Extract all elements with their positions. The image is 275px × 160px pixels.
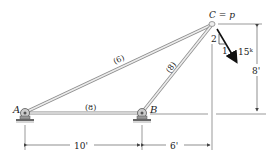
member-label-bc: (8) [164, 60, 178, 74]
dimension-label-height: 8' [252, 66, 260, 76]
member-label-ab: (8) [85, 103, 96, 112]
joint-label-a: A [12, 104, 20, 115]
joint-c [209, 22, 215, 27]
truss-diagram: A B C = p (6) (8) (8) 2 1 15ᵏ 8' 10' 6' [0, 0, 275, 160]
dimension-label-bc: 6' [170, 141, 178, 151]
slope-rise-label: 2 [211, 34, 217, 44]
dimension-label-ab: 10' [74, 141, 88, 151]
member-label-ac: (6) [112, 53, 126, 66]
member-bc [144, 26, 211, 110]
joint-label-b: B [149, 104, 157, 115]
slope-run-label: 1 [222, 46, 228, 56]
joint-label-c: C = p [209, 10, 235, 20]
pin-support-b [133, 109, 151, 123]
load-magnitude-label: 15ᵏ [238, 47, 253, 57]
member-ac [28, 25, 211, 111]
load-arrow [217, 29, 236, 61]
